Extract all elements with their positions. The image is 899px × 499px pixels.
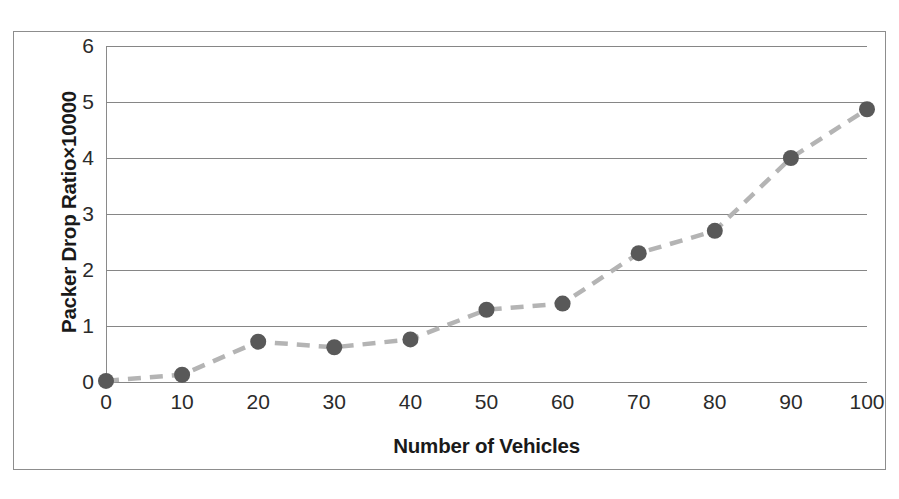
y-axis-title: Packer Drop Ratio×10000: [57, 47, 81, 377]
y-tick-label-4: 4: [82, 146, 94, 170]
x-tick-label-10: 10: [170, 390, 193, 414]
x-tick-label-70: 70: [627, 390, 650, 414]
data-point-80: [707, 223, 723, 239]
line-chart: Packer Drop Ratio×10000 0123456 01020304…: [0, 0, 899, 499]
y-tick-label-5: 5: [82, 90, 94, 114]
y-tick-label-2: 2: [82, 258, 94, 282]
data-point-30: [326, 339, 342, 355]
x-tick-label-20: 20: [247, 390, 270, 414]
x-tick-label-100: 100: [849, 390, 884, 414]
data-point-20: [250, 334, 266, 350]
y-tick-label-3: 3: [82, 202, 94, 226]
y-tick-label-0: 0: [82, 370, 94, 394]
x-tick-label-0: 0: [100, 390, 112, 414]
x-tick-label-80: 80: [703, 390, 726, 414]
x-tick-label-60: 60: [551, 390, 574, 414]
data-point-60: [555, 296, 571, 312]
series-layer: [106, 46, 867, 382]
data-point-100: [859, 101, 875, 117]
y-tick-label-1: 1: [82, 314, 94, 338]
x-tick-label-50: 50: [475, 390, 498, 414]
x-tick-label-90: 90: [779, 390, 802, 414]
series-line: [106, 109, 867, 381]
x-tick-label-30: 30: [323, 390, 346, 414]
series-markers: [98, 101, 875, 389]
data-point-50: [479, 302, 495, 318]
x-axis-title: Number of Vehicles: [106, 434, 867, 458]
gridline-y-0: [106, 382, 867, 383]
x-tick-label-40: 40: [399, 390, 422, 414]
data-point-0: [98, 373, 114, 389]
data-point-90: [783, 150, 799, 166]
y-tick-label-6: 6: [82, 34, 94, 58]
plot-area: 0123456: [106, 46, 867, 382]
data-point-70: [631, 245, 647, 261]
data-point-10: [174, 367, 190, 383]
data-point-40: [402, 331, 418, 347]
